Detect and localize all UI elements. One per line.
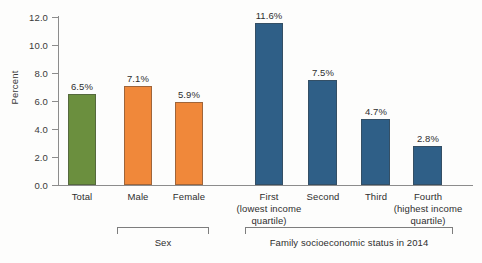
group-label-sex: Sex	[117, 237, 209, 248]
bar-value-female: 5.9%	[167, 89, 211, 100]
x-sublabel-fourth-quartile: (highest income quartile)	[386, 203, 470, 226]
y-axis-title: Percent	[9, 48, 20, 128]
x-axis-line	[58, 185, 473, 186]
y-tick-mark-12	[52, 17, 58, 18]
x-sublabel-first-quartile: (lowest income quartile)	[229, 203, 309, 226]
y-tick-mark-6	[52, 101, 58, 102]
x-label-fourth-quartile: Fourth	[401, 191, 455, 202]
bar-second-quartile[interactable]	[308, 80, 337, 185]
bar-fourth-quartile[interactable]	[413, 146, 442, 185]
y-tick-label-10: 10.0	[0, 40, 48, 51]
x-label-male: Male	[116, 191, 160, 202]
group-bracket-sex	[117, 227, 209, 234]
y-tick-label-2: 2.0	[0, 152, 48, 163]
bar-value-first-quartile: 11.6%	[245, 10, 293, 21]
y-tick-label-0: 0.0	[0, 180, 48, 191]
x-label-third-quartile: Third	[351, 191, 401, 202]
y-tick-mark-0	[52, 185, 58, 186]
bar-value-total: 6.5%	[60, 81, 104, 92]
y-tick-mark-2	[52, 157, 58, 158]
y-tick-label-6: 6.0	[0, 96, 48, 107]
group-bracket-ses	[245, 227, 453, 234]
bar-total[interactable]	[68, 94, 96, 185]
x-label-female: Female	[163, 191, 215, 202]
x-label-second-quartile: Second	[296, 191, 350, 202]
bar-male[interactable]	[124, 86, 152, 185]
y-tick-label-8: 8.0	[0, 68, 48, 79]
bar-female[interactable]	[175, 102, 203, 185]
y-tick-mark-8	[52, 73, 58, 74]
bar-chart-figure: Percent 12.0 10.0 8.0 6.0 4.0 2.0 0.0 6.…	[0, 0, 482, 263]
y-axis-line	[58, 16, 59, 186]
bar-value-third-quartile: 4.7%	[353, 106, 399, 117]
y-tick-label-12: 12.0	[0, 12, 48, 23]
bar-first-quartile[interactable]	[255, 23, 283, 185]
bar-value-male: 7.1%	[116, 73, 160, 84]
y-tick-mark-10	[52, 45, 58, 46]
x-label-total: Total	[60, 191, 104, 202]
bar-third-quartile[interactable]	[361, 119, 390, 185]
y-tick-mark-4	[52, 129, 58, 130]
bar-value-second-quartile: 7.5%	[300, 67, 346, 78]
y-tick-label-4: 4.0	[0, 124, 48, 135]
group-label-ses: Family socioeconomic status in 2014	[239, 237, 459, 248]
bar-value-fourth-quartile: 2.8%	[405, 133, 451, 144]
x-label-first-quartile: First	[243, 191, 295, 202]
